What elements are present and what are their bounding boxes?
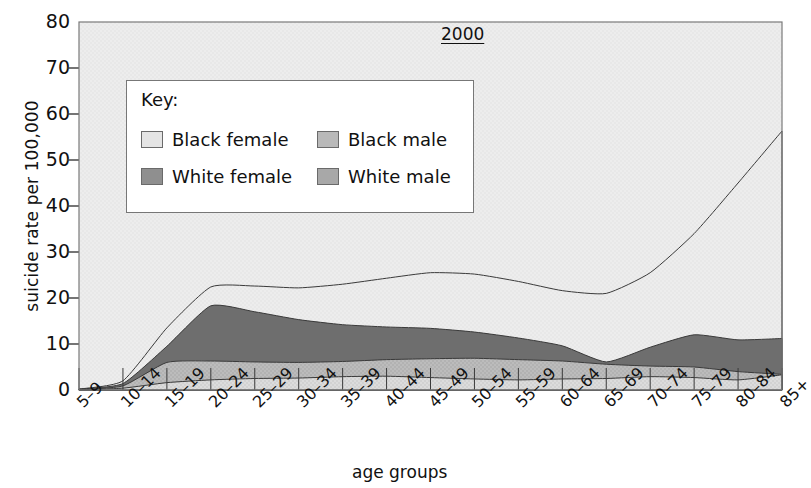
legend-label-white-male: White male [348,166,451,187]
legend-label-black-male: Black male [348,129,447,150]
legend-entry-black-male[interactable]: Black male [317,129,447,150]
legend-swatch-white-male [317,168,339,185]
legend-label-black-female: Black female [172,129,288,150]
legend-entry-black-female[interactable]: Black female [141,129,288,150]
legend-swatch-black-female [141,131,163,148]
legend-entry-white-female[interactable]: White female [141,166,292,187]
legend-swatch-black-male [317,131,339,148]
x-axis-title: age groups [352,462,447,482]
legend-label-white-female: White female [172,166,292,187]
legend: Key: Black female Black male White femal… [126,80,474,213]
legend-title: Key: [141,89,178,110]
legend-entry-white-male[interactable]: White male [317,166,451,187]
chart-title: 2000 [441,24,484,44]
legend-swatch-white-female [141,168,163,185]
